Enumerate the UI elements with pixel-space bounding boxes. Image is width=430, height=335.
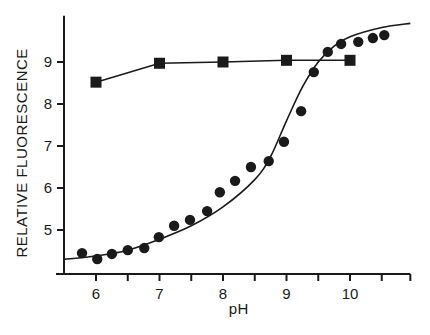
y-tick-label: 7	[44, 137, 52, 154]
y-tick-label: 8	[44, 95, 52, 112]
circle-marker	[169, 221, 179, 231]
square-marker	[281, 55, 292, 66]
circle-marker	[185, 215, 195, 225]
x-tick-label: 10	[342, 285, 359, 302]
y-tick-label: 9	[44, 53, 52, 70]
x-tick-label: 7	[155, 285, 163, 302]
square-marker	[345, 55, 356, 66]
circle-marker	[215, 187, 225, 197]
circle-marker	[230, 176, 240, 186]
circle-marker	[296, 106, 306, 116]
square-marker	[91, 77, 102, 88]
fitted-curve	[64, 23, 410, 259]
x-tick-label: 9	[282, 285, 290, 302]
x-axis-label: pH	[229, 300, 249, 317]
circle-marker	[246, 162, 256, 172]
circle-marker	[353, 37, 363, 47]
x-tick-label: 8	[219, 285, 227, 302]
circle-marker	[279, 137, 289, 147]
y-tick-label: 5	[44, 221, 52, 238]
circle-marker	[379, 30, 389, 40]
plot-area	[64, 23, 410, 264]
y-tick-label: 6	[44, 179, 52, 196]
x-tick-label: 6	[92, 285, 100, 302]
chart: 67891056789 pH RELATIVE FLUORESCENCE	[0, 0, 430, 335]
circle-marker	[368, 33, 378, 43]
square-marker	[154, 58, 165, 69]
square-marker	[218, 57, 229, 68]
y-axis-label: RELATIVE FLUORESCENCE	[13, 48, 30, 257]
